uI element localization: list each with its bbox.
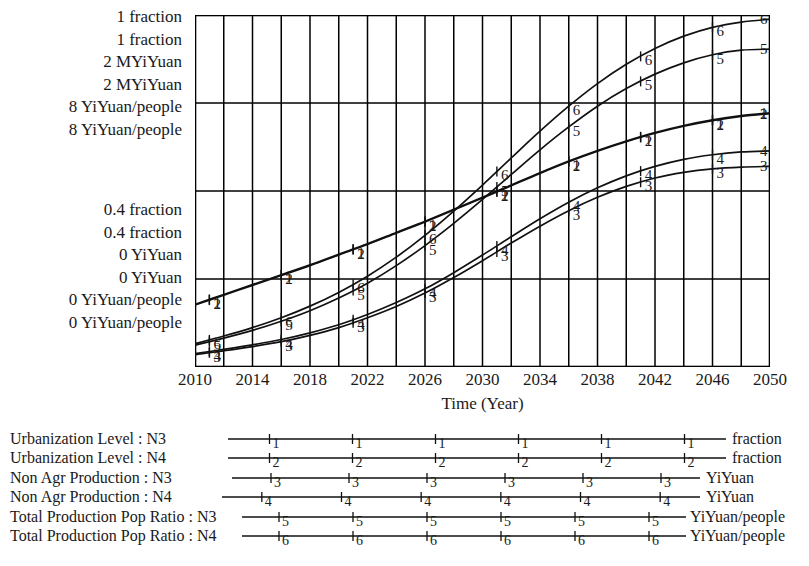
- legend-label-2: Urbanization Level : N4: [10, 449, 166, 467]
- x-axis-tick-labels: 2010201420182022202620302034203820422046…: [195, 370, 770, 394]
- series-marker-label-2: 2: [285, 271, 293, 287]
- svg-text:1: 1: [356, 436, 363, 449]
- x-tick-label: 2046: [683, 370, 743, 390]
- svg-text:6: 6: [282, 533, 289, 546]
- series-marker-label-6: 6: [285, 314, 293, 330]
- svg-text:5: 5: [652, 514, 659, 527]
- axis-scale-label-4: 0 YiYuan: [0, 267, 182, 290]
- svg-text:5: 5: [282, 514, 289, 527]
- legend-line-sample-1: 111111: [228, 430, 726, 449]
- svg-text:2: 2: [605, 455, 612, 468]
- svg-text:6: 6: [504, 533, 511, 546]
- svg-text:1: 1: [688, 436, 695, 449]
- legend-row-3[interactable]: Non Agr Production : N3333333YiYuan: [0, 469, 809, 488]
- legend-unit-5: YiYuan/people: [690, 508, 785, 526]
- svg-text:4: 4: [265, 494, 272, 507]
- x-tick-label: 2050: [740, 370, 800, 390]
- chart-legend: Urbanization Level : N3111111fractionUrb…: [0, 430, 809, 558]
- svg-text:1: 1: [605, 436, 612, 449]
- legend-line-sample-4: 444444: [222, 488, 700, 507]
- x-tick-label: 2042: [625, 370, 685, 390]
- axis-scale-label-2: 1 fraction: [0, 29, 182, 52]
- axis-scale-label-6: 0 YiYuan/people: [0, 312, 182, 335]
- legend-unit-6: YiYuan/people: [690, 527, 785, 545]
- svg-text:6: 6: [430, 533, 437, 546]
- axis-scale-label-1: 1 fraction: [0, 6, 182, 29]
- series-marker-label-6: 6: [573, 102, 581, 118]
- x-tick-label: 2014: [223, 370, 283, 390]
- svg-text:5: 5: [578, 514, 585, 527]
- axis-scale-labels-top: 1 fraction1 fraction2 MYiYuan2 MYiYuan8 …: [0, 6, 182, 142]
- legend-unit-1: fraction: [732, 430, 782, 448]
- axis-scale-label-1: 0.4 fraction: [0, 199, 182, 222]
- svg-text:1: 1: [273, 436, 280, 449]
- series-end-label-6: 6: [760, 15, 768, 27]
- legend-row-2[interactable]: Urbanization Level : N4222222fraction: [0, 449, 809, 468]
- series-marker-label-6: 6: [213, 336, 221, 352]
- legend-row-6[interactable]: Total Production Pop Ratio : N4666666YiY…: [0, 527, 809, 546]
- svg-text:4: 4: [345, 494, 352, 507]
- series-marker-label-6: 6: [645, 52, 653, 68]
- svg-text:3: 3: [352, 475, 359, 488]
- x-tick-label: 2018: [280, 370, 340, 390]
- legend-line-sample-5: 555555: [242, 508, 686, 527]
- svg-text:3: 3: [430, 475, 437, 488]
- svg-text:2: 2: [688, 455, 695, 468]
- series-marker-label-5: 5: [645, 77, 653, 93]
- series-marker-label-4: 4: [357, 316, 365, 332]
- axis-scale-label-5: 8 YiYuan/people: [0, 96, 182, 119]
- svg-text:4: 4: [663, 494, 670, 507]
- legend-row-4[interactable]: Non Agr Production : N4444444YiYuan: [0, 488, 809, 507]
- axis-scale-labels-bottom: 0.4 fraction0.4 fraction0 YiYuan0 YiYuan…: [0, 199, 182, 335]
- svg-text:3: 3: [508, 475, 515, 488]
- series-marker-label-2: 2: [645, 133, 653, 149]
- chart-root: 1 fraction1 fraction2 MYiYuan2 MYiYuan8 …: [0, 0, 809, 566]
- series-end-label-5: 5: [760, 41, 768, 57]
- x-axis-title: Time (Year): [195, 394, 770, 414]
- series-marker-label-2: 2: [213, 296, 221, 312]
- legend-sample-svg: 222222: [228, 449, 726, 468]
- series-end-label-3: 3: [760, 158, 768, 174]
- axis-scale-label-3: 0 YiYuan: [0, 244, 182, 267]
- series-marker-label-6: 6: [429, 231, 437, 247]
- x-tick-label: 2034: [510, 370, 570, 390]
- svg-text:3: 3: [586, 475, 593, 488]
- legend-label-5: Total Production Pop Ratio : N3: [10, 508, 216, 526]
- legend-label-6: Total Production Pop Ratio : N4: [10, 527, 216, 545]
- series-marker-label-5: 5: [573, 123, 581, 139]
- x-tick-label: 2026: [395, 370, 455, 390]
- legend-sample-svg: 333333: [232, 469, 700, 488]
- axis-scale-label-3: 2 MYiYuan: [0, 51, 182, 74]
- series-end-label-2: 2: [760, 106, 768, 122]
- svg-text:2: 2: [273, 455, 280, 468]
- legend-unit-2: fraction: [732, 449, 782, 467]
- legend-sample-svg: 555555: [242, 508, 686, 527]
- legend-label-4: Non Agr Production : N4: [10, 488, 172, 506]
- series-marker-label-6: 6: [717, 23, 725, 39]
- legend-line-sample-2: 222222: [228, 449, 726, 468]
- legend-line-sample-3: 333333: [232, 469, 700, 488]
- series-marker-label-2: 2: [357, 246, 365, 262]
- axis-scale-label-2: 0.4 fraction: [0, 222, 182, 245]
- svg-text:5: 5: [504, 514, 511, 527]
- legend-row-1[interactable]: Urbanization Level : N3111111fraction: [0, 430, 809, 449]
- legend-row-5[interactable]: Total Production Pop Ratio : N3555555YiY…: [0, 508, 809, 527]
- svg-text:3: 3: [664, 475, 671, 488]
- svg-text:1: 1: [439, 436, 446, 449]
- x-tick-label: 2022: [338, 370, 398, 390]
- legend-label-3: Non Agr Production : N3: [10, 469, 172, 487]
- series-marker-label-3: 3: [717, 165, 725, 181]
- svg-text:4: 4: [504, 494, 511, 507]
- svg-text:6: 6: [356, 533, 363, 546]
- series-marker-label-4: 4: [717, 151, 725, 167]
- series-marker-label-4: 4: [501, 242, 509, 258]
- svg-text:5: 5: [356, 514, 363, 527]
- series-marker-label-4: 4: [573, 198, 581, 214]
- legend-unit-3: YiYuan: [706, 469, 754, 487]
- svg-text:2: 2: [522, 455, 529, 468]
- series-marker-label-5: 5: [501, 183, 509, 199]
- x-tick-label: 2030: [453, 370, 513, 390]
- series-marker-label-6: 6: [501, 167, 509, 183]
- legend-sample-svg: 111111: [228, 430, 726, 449]
- series-marker-label-6: 6: [357, 280, 365, 296]
